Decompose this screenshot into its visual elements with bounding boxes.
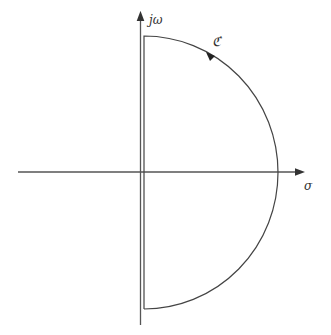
jomega-label: jω (146, 13, 163, 27)
sigma-label: σ (304, 179, 313, 193)
contour-label: ℭ (212, 34, 223, 49)
nyquist-diagram: jω σ ℭ (0, 0, 331, 335)
